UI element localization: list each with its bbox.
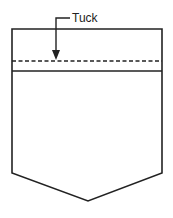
tuck-label: Tuck xyxy=(72,11,99,25)
pocket-diagram: Tuck xyxy=(0,0,173,218)
pocket-outline xyxy=(12,29,162,201)
tuck-leader-line xyxy=(56,18,70,52)
arrow-down-icon xyxy=(52,50,60,60)
